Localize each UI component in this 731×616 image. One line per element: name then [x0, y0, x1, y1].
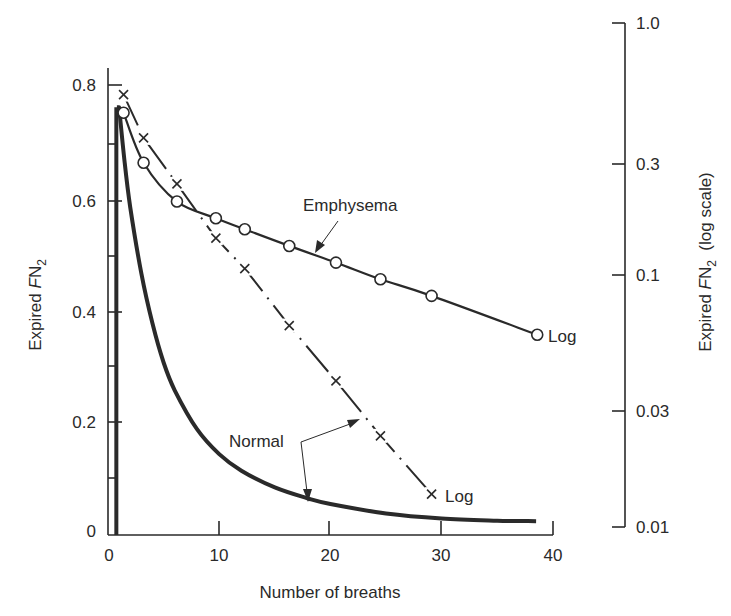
x-tick-label: 30 [432, 546, 451, 565]
x-marker [329, 374, 343, 388]
emphysema-arrow [315, 221, 338, 253]
circle-marker [138, 157, 149, 168]
circle-marker [210, 213, 221, 224]
x-marker [209, 231, 223, 245]
y-tick-label: 0.4 [72, 303, 96, 322]
y-right-tick-label: 0.01 [636, 518, 669, 537]
y-tick-label: 0.8 [72, 76, 96, 95]
emphysema-line [124, 113, 538, 335]
circle-marker [171, 196, 182, 207]
chart: 0.8 0.6 0.4 0.2 0 Expired FN2 0 10 20 30… [0, 0, 731, 616]
normal-label: Normal [229, 432, 284, 451]
x-marker [425, 487, 439, 501]
y-right-tick-label: 1.0 [636, 14, 660, 33]
x-marker [137, 131, 151, 145]
y-axis-right [612, 23, 625, 527]
x-axis [108, 521, 553, 535]
series-emphysema [118, 107, 543, 340]
circle-marker [284, 240, 295, 251]
y-axis-right-title: Expired FN2 (log scale) [696, 172, 719, 352]
series-normal-linear [116, 107, 536, 535]
log-label-emphysema: Log [548, 327, 576, 346]
x-axis-tick-labels: 0 10 20 30 40 [104, 546, 562, 565]
y-axis-right-tick-labels: 1.0 0.3 0.1 0.03 0.01 [636, 14, 669, 537]
normal-arrowhead-upper [347, 419, 360, 428]
log-label-normal: Log [445, 487, 473, 506]
x-tick-label: 10 [210, 546, 229, 565]
circle-marker [375, 274, 386, 285]
y-axis-left-title: Expired FN2 [26, 259, 49, 351]
circle-marker [239, 224, 250, 235]
x-tick-label: 20 [321, 546, 340, 565]
x-marker [170, 177, 184, 191]
normal-arrows [301, 424, 350, 492]
x-marker [238, 262, 252, 276]
circle-marker [330, 257, 341, 268]
circle-marker [426, 290, 437, 301]
emphysema-label: Emphysema [303, 196, 398, 215]
x-marker [373, 429, 387, 443]
y-tick-label: 0.6 [72, 192, 96, 211]
x-tick-label: 40 [544, 546, 563, 565]
normal-linear-curve [117, 107, 536, 521]
x-marker [117, 88, 131, 102]
x-axis-title: Number of breaths [260, 583, 401, 602]
x-marker [282, 319, 296, 333]
y-tick-label: 0 [87, 522, 96, 541]
x-tick-label: 0 [104, 546, 113, 565]
y-right-tick-label: 0.1 [636, 266, 660, 285]
y-tick-label: 0.2 [72, 413, 96, 432]
y-right-tick-label: 0.3 [636, 155, 660, 174]
y-right-tick-label: 0.03 [636, 402, 669, 421]
y-axis-left-tick-labels: 0.8 0.6 0.4 0.2 0 [72, 76, 96, 541]
circle-marker [118, 107, 129, 118]
circle-marker [532, 329, 543, 340]
